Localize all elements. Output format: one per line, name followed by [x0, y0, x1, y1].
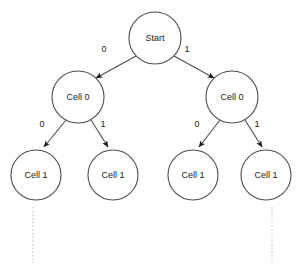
node-group: Start Cell 0 Cell 0 Cell 1 Cell 1 Cell 1 [11, 12, 291, 200]
node-cell0-right[interactable]: Cell 0 [206, 71, 258, 123]
node-cell0-left-label: Cell 0 [66, 92, 89, 102]
node-cell0-right-label: Cell 0 [220, 92, 243, 102]
edge-start-to-cell0-left [96, 56, 136, 78]
edge-label-cell0-left-0: 0 [39, 119, 44, 129]
node-cell1-c[interactable]: Cell 1 [168, 150, 218, 200]
decision-tree-diagram: Start Cell 0 Cell 0 Cell 1 Cell 1 Cell 1 [0, 0, 303, 276]
edge-cell0-right-to-cell1-c [199, 120, 220, 147]
edge-label-cell0-left-1: 1 [100, 119, 105, 129]
node-cell1-b-label: Cell 1 [101, 170, 124, 180]
node-cell1-b[interactable]: Cell 1 [88, 150, 138, 200]
node-cell1-a-label: Cell 1 [24, 170, 47, 180]
node-cell1-a[interactable]: Cell 1 [11, 150, 61, 200]
node-start[interactable]: Start [129, 12, 181, 64]
node-cell0-left[interactable]: Cell 0 [52, 71, 104, 123]
edge-label-cell0-right-0: 0 [194, 119, 199, 129]
edge-label-start-left: 0 [101, 44, 106, 54]
node-start-label: Start [145, 33, 165, 43]
node-cell1-d-label: Cell 1 [254, 170, 277, 180]
edge-label-cell0-right-1: 1 [254, 119, 259, 129]
node-cell1-d[interactable]: Cell 1 [241, 150, 291, 200]
node-cell1-c-label: Cell 1 [181, 170, 204, 180]
continuation-group [33, 207, 272, 263]
edge-start-to-cell0-right [174, 56, 214, 78]
edge-cell0-left-to-cell1-a [44, 120, 66, 147]
tree-canvas: Start Cell 0 Cell 0 Cell 1 Cell 1 Cell 1 [0, 0, 303, 276]
edge-label-start-right: 1 [184, 44, 189, 54]
